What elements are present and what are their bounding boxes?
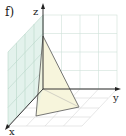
z-axis-arrow-icon: [41, 3, 45, 9]
panel-label: f): [5, 6, 14, 18]
axes-diagram: [0, 0, 126, 136]
z-axis-label: z: [33, 7, 38, 17]
y-axis-arrow-icon: [115, 87, 121, 91]
x-axis-label: x: [9, 127, 15, 136]
tetrahedron-shape: [36, 36, 79, 116]
y-axis-label: y: [113, 93, 119, 103]
